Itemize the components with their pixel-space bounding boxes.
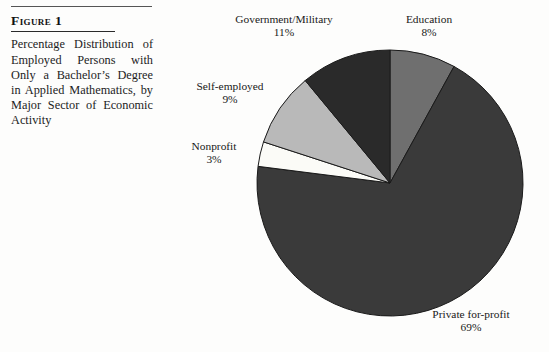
figure-caption-block: Figure 1 Percentage Distribution of Empl… — [11, 6, 153, 129]
caption-rule-top — [11, 6, 152, 7]
pie-label-education: Education 8% — [384, 13, 474, 40]
pie-chart-area: Government/Military 11% Education 8% Sel… — [160, 0, 549, 352]
pie-slices — [257, 50, 523, 316]
pie-label-private-for-profit-name: Private for-profit — [432, 308, 509, 320]
pie-label-nonprofit-name: Nonprofit — [192, 140, 237, 152]
pie-label-government-military: Government/Military 11% — [222, 13, 346, 40]
pie-label-self-employed-name: Self-employed — [196, 80, 263, 92]
pie-label-self-employed: Self-employed 9% — [176, 80, 284, 107]
figure-caption-text: Percentage Distribution of Employed Pers… — [11, 37, 153, 128]
pie-label-nonprofit: Nonprofit 3% — [168, 140, 260, 167]
pie-label-government-military-value: 11% — [222, 26, 346, 39]
pie-chart-svg — [160, 0, 549, 352]
pie-label-private-for-profit: Private for-profit 69% — [407, 308, 535, 335]
pie-label-nonprofit-value: 3% — [168, 153, 260, 166]
pie-label-education-value: 8% — [384, 26, 474, 39]
figure-root: Figure 1 Percentage Distribution of Empl… — [0, 0, 549, 352]
pie-label-private-for-profit-value: 69% — [407, 321, 535, 334]
figure-number-label: Figure 1 — [11, 13, 153, 30]
pie-label-government-military-name: Government/Military — [235, 13, 332, 25]
pie-label-education-name: Education — [406, 13, 452, 25]
caption-rule-bottom — [11, 31, 115, 32]
pie-label-self-employed-value: 9% — [176, 93, 284, 106]
